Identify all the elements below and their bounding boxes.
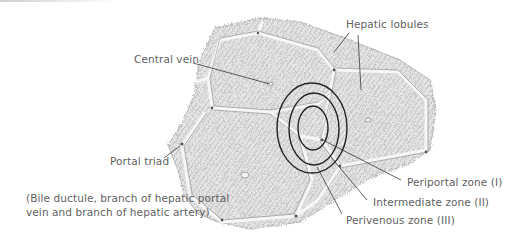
periportal-zone-label: Periportal zone (I) xyxy=(407,176,502,189)
liver-lobule-diagram: Central vein Hepatic lobules Portal tria… xyxy=(0,0,510,242)
hepatic-lobules-label: Hepatic lobules xyxy=(346,18,429,31)
portal-triad-detail-label: (Bile ductule, branch of hepatic portal … xyxy=(26,191,229,219)
portal-triad-label: Portal triad xyxy=(110,155,169,168)
central-vein-bottom xyxy=(241,172,249,178)
perivenous-zone-label: Perivenous zone (III) xyxy=(346,214,455,227)
central-vein-label: Central vein xyxy=(134,53,199,66)
central-vein-right xyxy=(365,118,371,122)
intermediate-zone-label: Intermediate zone (II) xyxy=(373,196,489,209)
